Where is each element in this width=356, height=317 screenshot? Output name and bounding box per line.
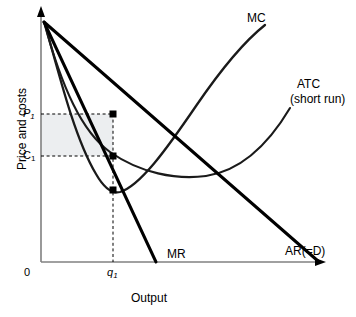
ar-curve-label: AR(=D) <box>285 245 325 258</box>
cost-tick-label: C1 <box>23 149 35 162</box>
price-tick-sub: 1 <box>30 112 34 121</box>
y-axis-arrow-icon <box>37 6 45 17</box>
cost-tick-sub: 1 <box>31 154 35 163</box>
mc-curve-label: MC <box>247 12 266 25</box>
quantity-tick-sub: 1 <box>113 271 117 280</box>
cost-tick-main: C <box>23 149 31 161</box>
monopoly-diagram-figure: MC ATC (short run) MR AR(=D) Price and c… <box>0 0 356 317</box>
origin-label: 0 <box>24 266 30 278</box>
price-tick-label: P1 <box>23 107 35 120</box>
atc-curve-label: ATC <box>297 78 320 91</box>
x-axis-title: Output <box>131 292 167 305</box>
quantity-tick-label: q1 <box>107 266 118 279</box>
cost-point-marker <box>110 153 117 160</box>
price-point-marker <box>110 111 117 118</box>
plot-area <box>0 0 356 317</box>
mr-mc-intersection-marker <box>110 187 117 194</box>
mr-curve-label: MR <box>167 248 186 261</box>
atc-curve-sublabel: (short run) <box>290 93 345 106</box>
